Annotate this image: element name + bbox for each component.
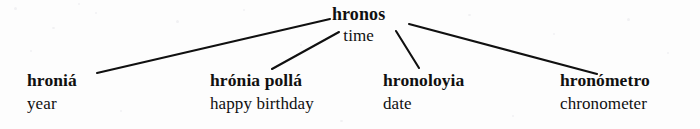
scan-speckle	[30, 50, 32, 52]
scan-speckle	[340, 120, 343, 122]
scan-speckle	[627, 18, 630, 21]
tree-node-root: hronos time	[332, 5, 385, 44]
leaf-gloss: happy birthday	[210, 95, 314, 112]
scan-speckle	[512, 115, 514, 117]
leaf-term: hroniá	[27, 72, 77, 90]
scan-speckle	[468, 14, 471, 16]
tree-node-leaf-hronometro: hronómetro chronometer	[560, 72, 650, 112]
root-term: hronos	[332, 5, 385, 23]
connector-root-to-hronia	[97, 19, 330, 73]
scan-speckle	[553, 33, 555, 35]
connector-root-to-hronoloyia	[396, 31, 419, 68]
scan-speckle	[176, 20, 179, 23]
tree-node-leaf-hronia: hroniá year	[27, 72, 77, 112]
scan-speckle	[95, 12, 97, 14]
scan-speckle	[78, 3, 80, 5]
word-family-tree-figure: hronos time hroniá year hrónia pollá hap…	[0, 0, 700, 129]
leaf-gloss: year	[27, 95, 77, 112]
connector-root-to-hronia-polla	[272, 32, 339, 69]
leaf-gloss: chronometer	[560, 95, 650, 112]
scan-speckle	[14, 7, 17, 10]
scan-speckle	[52, 27, 55, 29]
scan-speckle	[120, 110, 122, 112]
leaf-gloss: date	[383, 95, 464, 112]
tree-node-leaf-hronia-polla: hrónia pollá happy birthday	[210, 72, 314, 112]
root-gloss: time	[332, 27, 385, 44]
leaf-term: hrónia pollá	[210, 72, 314, 90]
tree-node-leaf-hronoloyia: hronoloyia date	[383, 72, 464, 112]
leaf-term: hronómetro	[560, 72, 650, 90]
connector-root-to-hronometro	[409, 24, 597, 74]
scan-speckle	[243, 9, 245, 11]
scan-speckle	[667, 52, 669, 54]
scan-speckle	[300, 44, 302, 46]
leaf-term: hronoloyia	[383, 72, 464, 90]
